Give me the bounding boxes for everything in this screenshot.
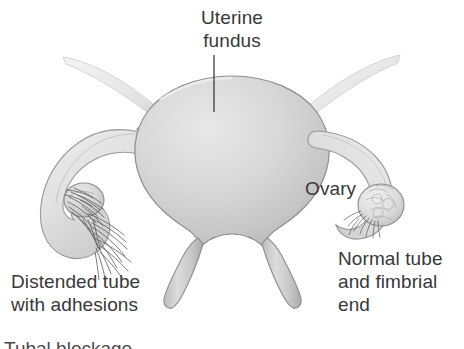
cervix-left-leg (164, 238, 203, 308)
figure-caption-cropped: Tubal blockage (4, 337, 304, 349)
right-ovary (358, 184, 404, 226)
cervix-right-leg (262, 238, 301, 308)
anatomical-figure: Uterine fundus Ovary Distended tube with… (0, 0, 464, 349)
uterus-fundus-body (135, 76, 329, 246)
anatomy-illustration (0, 0, 464, 349)
